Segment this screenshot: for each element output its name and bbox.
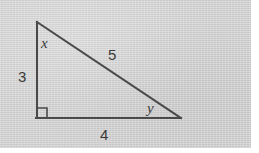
right-angle-marker bbox=[37, 108, 47, 118]
right-triangle-diagram bbox=[0, 0, 259, 153]
hypotenuse-line bbox=[37, 22, 181, 118]
side-length-label-3: 3 bbox=[18, 69, 26, 84]
side-length-label-4: 4 bbox=[100, 127, 108, 142]
figure-canvas: x y 3 5 4 bbox=[0, 0, 259, 153]
side-length-label-5: 5 bbox=[108, 47, 116, 62]
angle-label-y: y bbox=[147, 101, 154, 116]
angle-label-x: x bbox=[41, 36, 48, 51]
